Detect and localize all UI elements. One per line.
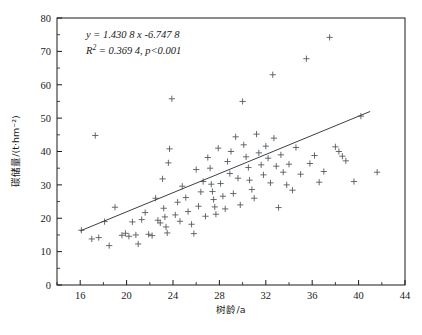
data-point <box>146 231 152 237</box>
data-point <box>253 131 259 137</box>
x-tick-label: 16 <box>75 290 86 301</box>
data-point <box>183 194 189 200</box>
data-point <box>265 155 271 161</box>
x-tick-label: 20 <box>121 290 132 301</box>
data-point <box>161 205 167 211</box>
data-point <box>275 204 281 210</box>
data-point <box>227 170 233 176</box>
x-tick-label: 44 <box>400 290 411 301</box>
data-point <box>284 182 290 188</box>
data-point <box>217 180 223 186</box>
data-point <box>172 212 178 218</box>
data-point <box>228 148 234 154</box>
data-point <box>185 208 191 214</box>
y-axis-ticks <box>57 18 62 285</box>
data-point <box>209 188 215 194</box>
data-point <box>213 211 219 217</box>
data-point <box>220 193 226 199</box>
y-tick-label: 50 <box>41 113 52 124</box>
data-point <box>212 204 218 210</box>
data-point <box>193 166 199 172</box>
data-point <box>89 236 95 242</box>
data-point <box>249 186 255 192</box>
data-point <box>286 161 292 167</box>
data-point <box>256 150 262 156</box>
x-tick-label: 40 <box>353 290 364 301</box>
y-tick-label: 40 <box>41 146 52 157</box>
data-point <box>164 230 170 236</box>
data-point <box>163 224 169 230</box>
data-point <box>188 221 194 227</box>
data-point <box>303 56 309 62</box>
x-tick-label: 32 <box>261 290 272 301</box>
data-point <box>169 96 175 102</box>
data-point <box>245 164 251 170</box>
data-point <box>327 34 333 40</box>
data-point <box>243 154 249 160</box>
y-axis-tick-labels: 01020304050607080 <box>41 13 52 291</box>
data-point <box>237 202 243 208</box>
x-tick-label: 28 <box>214 290 225 301</box>
data-point <box>92 132 98 138</box>
data-point <box>240 98 246 104</box>
data-point <box>278 152 284 158</box>
data-point <box>246 177 252 183</box>
data-point <box>177 218 183 224</box>
data-point <box>316 179 322 185</box>
data-point <box>133 232 139 238</box>
data-point-markers <box>78 34 380 248</box>
x-axis-tick-labels: 1620242832364044 <box>75 290 411 301</box>
data-point <box>271 135 277 141</box>
data-point <box>241 142 247 148</box>
data-point <box>222 206 228 212</box>
data-point <box>258 162 264 168</box>
data-point <box>162 214 168 220</box>
data-point <box>112 204 118 210</box>
y-tick-label: 0 <box>46 280 51 291</box>
data-point <box>233 134 239 140</box>
y-tick-label: 80 <box>41 13 52 24</box>
data-point <box>126 233 132 239</box>
data-point <box>135 241 141 247</box>
data-point <box>211 196 217 202</box>
data-point <box>205 154 211 160</box>
data-point <box>280 169 286 175</box>
data-point <box>293 144 299 150</box>
data-point <box>129 219 135 225</box>
y-axis-title: 碳储量/(t·hm⁻²) <box>10 115 21 186</box>
data-point <box>374 169 380 175</box>
scatter-chart-figure: 1620242832364044 01020304050607080 y = 1… <box>0 0 422 335</box>
data-point <box>208 181 214 187</box>
data-point <box>351 178 357 184</box>
data-point <box>165 160 171 166</box>
data-point <box>336 148 342 154</box>
data-point <box>166 146 172 152</box>
data-point <box>106 243 112 249</box>
y-tick-label: 10 <box>41 246 52 257</box>
data-point <box>202 213 208 219</box>
y-tick-label: 20 <box>41 213 52 224</box>
data-point <box>215 145 221 151</box>
data-point <box>139 216 145 222</box>
y-tick-label: 30 <box>41 180 52 191</box>
y-tick-label: 60 <box>41 80 52 91</box>
data-point <box>343 158 349 164</box>
x-tick-label: 24 <box>168 290 179 301</box>
data-point <box>230 190 236 196</box>
data-point <box>321 168 327 174</box>
x-axis-ticks <box>57 280 405 285</box>
data-point <box>267 180 273 186</box>
data-point <box>273 163 279 169</box>
data-point <box>175 199 181 205</box>
chart-canvas: 1620242832364044 01020304050607080 y = 1… <box>0 0 422 335</box>
data-point <box>142 209 148 215</box>
data-point <box>235 175 241 181</box>
data-point <box>251 195 257 201</box>
data-point <box>224 158 230 164</box>
data-point <box>339 153 345 159</box>
data-point <box>195 203 201 209</box>
x-axis-title: 树龄/a <box>216 304 245 315</box>
equation-annotation-line2: R2 = 0.369 4, p<0.001 <box>85 43 181 57</box>
data-point <box>263 143 269 149</box>
data-point <box>191 231 197 237</box>
